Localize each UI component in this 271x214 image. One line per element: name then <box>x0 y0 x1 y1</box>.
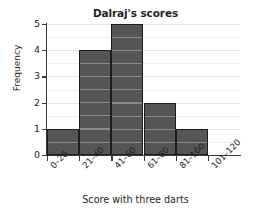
y-tick-label: 2 <box>27 98 40 108</box>
y-tick-mark <box>42 50 47 51</box>
x-tick-mark <box>144 156 145 161</box>
y-tick-mark <box>42 76 47 77</box>
chart-title: Dalraj's scores <box>0 7 271 19</box>
gridline <box>47 90 240 91</box>
y-tick-label: 1 <box>27 124 40 134</box>
x-tick-mark <box>47 156 48 161</box>
plot-area <box>47 24 240 155</box>
x-tick-mark <box>208 156 209 161</box>
gridline <box>47 76 240 77</box>
gridline <box>47 37 240 38</box>
bar-band-overlay <box>112 25 142 154</box>
y-axis-label: Frequency <box>12 13 22 123</box>
bar <box>79 50 111 155</box>
y-axis-line <box>46 23 47 156</box>
y-tick-label: 4 <box>27 45 40 55</box>
y-tick-label: 5 <box>27 19 40 29</box>
gridline <box>47 24 240 25</box>
y-tick-mark <box>42 129 47 130</box>
histogram-chart: Dalraj's scores Frequency 012345 0–2021–… <box>0 0 271 214</box>
bar-band-overlay <box>145 104 175 154</box>
y-tick-label: 3 <box>27 71 40 81</box>
y-tick-label: 0 <box>27 150 40 160</box>
x-axis-label: Score with three darts <box>0 194 271 205</box>
x-tick-mark <box>79 156 80 161</box>
y-tick-mark <box>42 24 47 25</box>
bar-band-overlay <box>80 51 110 154</box>
x-tick-mark <box>176 156 177 161</box>
gridline <box>47 50 240 51</box>
y-tick-mark <box>42 103 47 104</box>
bar <box>111 24 143 155</box>
x-tick-mark <box>111 156 112 161</box>
gridline <box>47 63 240 64</box>
